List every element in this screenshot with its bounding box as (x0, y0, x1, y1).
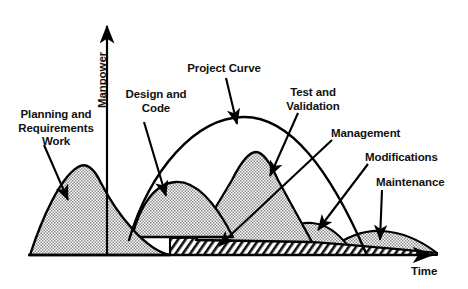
label-modifications: Modifications (365, 151, 438, 165)
label-maintenance: Maintenance (376, 176, 445, 190)
staffing-curve-figure: Planning and Requirements Work Design an… (0, 0, 468, 289)
arrow-test (270, 113, 298, 176)
label-planning-and-requirements-work: Planning and Requirements Work (10, 108, 102, 149)
label-time-axis: Time (411, 265, 437, 279)
label-test-and-validation: Test and Validation (280, 86, 346, 113)
label-project-curve: Project Curve (184, 62, 264, 76)
area-design-and-code (132, 182, 233, 237)
label-design-and-code: Design and Code (118, 88, 194, 115)
arrow-design (144, 122, 166, 196)
label-management: Management (331, 127, 400, 141)
label-manpower-axis: Manpower (96, 52, 110, 108)
